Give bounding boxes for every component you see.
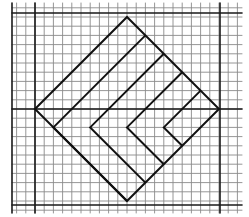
grid-thin-lines <box>12 3 242 213</box>
grid-diagram <box>0 0 249 217</box>
diagram-canvas <box>0 0 249 217</box>
